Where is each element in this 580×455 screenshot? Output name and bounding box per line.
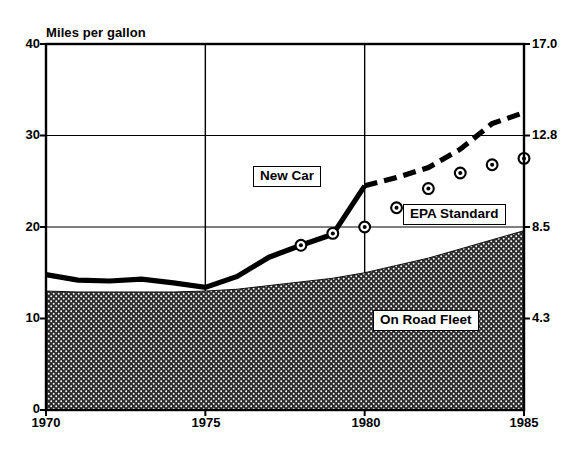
data-marker-dot-1984 — [490, 163, 494, 167]
data-marker-dot-1980 — [363, 225, 367, 229]
data-marker-dot-1982 — [426, 187, 430, 191]
plot-canvas — [0, 0, 580, 455]
data-marker-dot-1983 — [458, 171, 462, 175]
data-marker-dot-1981 — [395, 206, 399, 210]
data-marker-dot-1978 — [299, 243, 303, 247]
data-marker-dot-1979 — [331, 231, 335, 235]
line-epa-standard — [365, 113, 524, 186]
callout-new-car: New Car — [253, 166, 321, 187]
callout-on-road-fleet: On Road Fleet — [373, 310, 479, 331]
chart-figure: Miles per gallon 40 30 20 10 0 17.0 12.8… — [0, 0, 580, 455]
callout-epa-standard: EPA Standard — [403, 204, 506, 225]
